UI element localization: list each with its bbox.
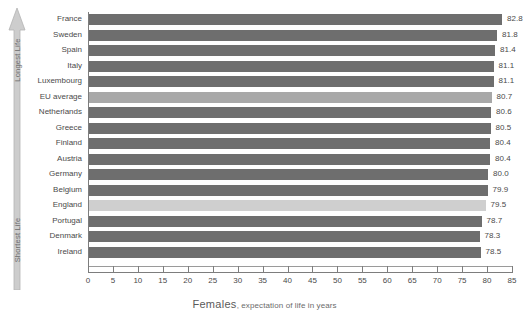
value-label: 80.7 — [497, 91, 513, 103]
x-tick — [163, 266, 164, 272]
value-label: 78.7 — [487, 215, 503, 227]
x-tick — [113, 266, 114, 272]
shortest-life-label: Shortest Life — [13, 218, 22, 263]
x-tick-label: 70 — [433, 276, 442, 285]
x-axis-line — [88, 272, 513, 273]
value-label: 78.5 — [486, 246, 502, 258]
x-tick — [188, 266, 189, 272]
x-tick — [362, 266, 363, 272]
x-tick-label: 45 — [308, 276, 317, 285]
value-label: 80.4 — [495, 153, 511, 165]
x-tick-label: 65 — [408, 276, 417, 285]
x-tick — [213, 266, 214, 272]
x-tick-label: 20 — [183, 276, 192, 285]
x-tick — [138, 266, 139, 272]
value-label: 80.4 — [495, 137, 511, 149]
bar — [89, 154, 490, 165]
x-tick-label: 5 — [111, 276, 115, 285]
bar — [89, 123, 491, 134]
bar — [89, 45, 495, 56]
category-label: Belgium — [53, 184, 82, 196]
category-label: Luxembourg — [38, 75, 82, 87]
x-tick-label: 10 — [133, 276, 142, 285]
category-label: Denmark — [50, 230, 82, 242]
category-label: EU average — [40, 91, 82, 103]
value-label: 82.8 — [507, 13, 523, 25]
category-label: Finland — [56, 137, 82, 149]
bar — [89, 185, 488, 196]
category-label: Netherlands — [39, 106, 82, 118]
x-tick — [387, 266, 388, 272]
chart-title-main: Females — [192, 298, 236, 310]
x-tick — [512, 266, 513, 272]
life-expectancy-direction-arrow: Longest Life Shortest Life — [6, 8, 28, 290]
x-tick-label: 75 — [458, 276, 467, 285]
longest-life-label: Longest Life — [13, 38, 22, 81]
bar — [89, 76, 494, 87]
x-tick-label: 15 — [158, 276, 167, 285]
x-tick-label: 40 — [283, 276, 292, 285]
category-label: Austria — [57, 153, 82, 165]
value-label: 80.5 — [496, 122, 512, 134]
category-label: Germany — [49, 168, 82, 180]
value-label: 80.0 — [493, 168, 509, 180]
value-label: 81.1 — [499, 60, 515, 72]
value-label: 79.9 — [493, 184, 509, 196]
bar — [89, 200, 486, 211]
x-tick-label: 50 — [333, 276, 342, 285]
bar — [89, 216, 482, 227]
category-label: Greece — [56, 122, 82, 134]
value-label: 79.5 — [491, 199, 507, 211]
chart-title: Females, expectation of life in years — [0, 294, 529, 312]
category-label: France — [57, 13, 82, 25]
category-label: Ireland — [58, 246, 82, 258]
bar — [89, 247, 481, 258]
x-tick — [88, 266, 89, 272]
x-tick — [412, 266, 413, 272]
bar — [89, 14, 502, 25]
value-label: 80.6 — [496, 106, 512, 118]
value-label: 81.1 — [499, 75, 515, 87]
x-axis-upper-line — [88, 266, 513, 267]
bar — [89, 92, 492, 103]
bar — [89, 107, 491, 118]
x-tick — [437, 266, 438, 272]
bar — [89, 169, 488, 180]
bar — [89, 138, 490, 149]
x-tick-label: 35 — [258, 276, 267, 285]
x-tick-label: 80 — [483, 276, 492, 285]
category-label: Sweden — [53, 29, 82, 41]
x-tick-label: 60 — [383, 276, 392, 285]
bar — [89, 61, 494, 72]
x-tick — [462, 266, 463, 272]
chart-title-sub: , expectation of life in years — [237, 301, 337, 310]
x-tick-label: 55 — [358, 276, 367, 285]
x-tick — [263, 266, 264, 272]
value-label: 78.3 — [485, 230, 501, 242]
x-tick-label: 25 — [208, 276, 217, 285]
x-tick-label: 30 — [233, 276, 242, 285]
x-tick — [288, 266, 289, 272]
plot-area: France82.8Sweden81.8Spain81.4Italy81.1Lu… — [88, 12, 512, 266]
x-tick-label: 85 — [508, 276, 517, 285]
value-label: 81.4 — [500, 44, 516, 56]
x-tick — [337, 266, 338, 272]
bar — [89, 30, 497, 41]
bar — [89, 231, 480, 242]
x-tick — [238, 266, 239, 272]
category-label: Italy — [67, 60, 82, 72]
x-tick — [312, 266, 313, 272]
x-tick-label: 0 — [86, 276, 90, 285]
category-label: Spain — [62, 44, 82, 56]
category-label: England — [53, 199, 82, 211]
value-label: 81.8 — [502, 29, 518, 41]
x-tick — [487, 266, 488, 272]
category-label: Portugal — [52, 215, 82, 227]
